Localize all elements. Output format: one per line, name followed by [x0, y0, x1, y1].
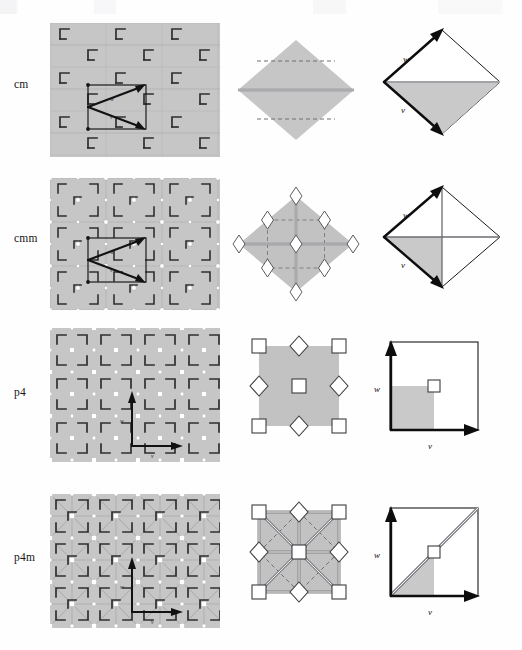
vector-label-v: v	[401, 105, 405, 115]
cm-cell	[235, 28, 357, 152]
cmm-cell	[232, 182, 360, 306]
vector-label-v: v	[428, 441, 432, 451]
vector-label-w: w	[374, 384, 380, 394]
svg-text:w: w	[110, 96, 114, 102]
cmm-pattern: w v	[50, 178, 220, 310]
vector-label-w: w	[403, 210, 409, 220]
svg-text:w: w	[110, 249, 114, 255]
svg-text:w: w	[120, 418, 124, 424]
vector-label-w: w	[374, 550, 380, 560]
vector-label-v: v	[401, 260, 405, 270]
cm-pattern: w v	[50, 23, 220, 157]
p4m-pattern: w v	[50, 494, 220, 628]
p4-cell	[240, 330, 358, 456]
p4m-lattice: w v	[368, 496, 508, 626]
wallpaper-groups-figure: cm	[0, 0, 522, 650]
cmm-lattice: w v	[365, 175, 510, 307]
svg-text:w: w	[120, 584, 124, 590]
scan-artifact-top	[0, 0, 522, 14]
cm-lattice: w v	[365, 20, 510, 152]
p4-pattern: w v	[50, 328, 220, 462]
vector-label-v: v	[428, 607, 432, 617]
p4m-cell	[240, 496, 358, 622]
p4-lattice: w v	[368, 330, 508, 460]
vector-label-w: w	[403, 54, 409, 64]
